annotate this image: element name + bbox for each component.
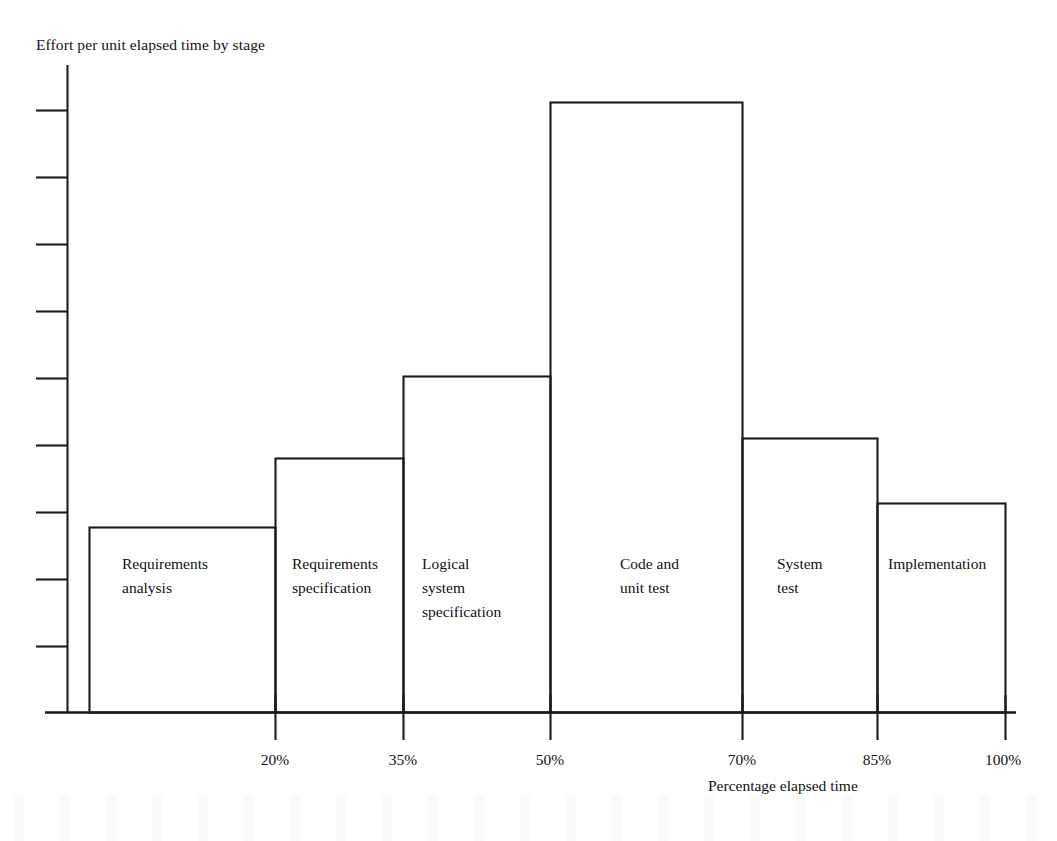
- svg-text:unit test: unit test: [620, 579, 670, 596]
- x-axis-ticks: [276, 695, 1006, 740]
- svg-text:system: system: [422, 579, 465, 596]
- svg-text:analysis: analysis: [122, 579, 172, 596]
- svg-text:specification: specification: [422, 603, 501, 620]
- x-tick-label-85: 85%: [863, 751, 892, 768]
- bar-label-code-and-unit-test: Code and unit test: [620, 555, 679, 596]
- bar-label-logical-system-specification: Logical system specification: [422, 555, 501, 620]
- svg-text:specification: specification: [292, 579, 371, 596]
- bars-group: [90, 103, 1006, 713]
- bar-label-system-test: System test: [777, 555, 823, 596]
- bar-labels-group: Requirements analysis Requirements speci…: [122, 555, 986, 620]
- bar-implementation[interactable]: [878, 504, 1006, 713]
- y-axis-ticks: [36, 111, 67, 647]
- chart-plot-area: 20% 35% 50% 70% 85% 100% Requirements an…: [0, 0, 1057, 841]
- x-tick-label-50: 50%: [536, 751, 565, 768]
- x-axis-title: Percentage elapsed time: [708, 777, 858, 796]
- bar-label-implementation: Implementation: [888, 555, 986, 572]
- svg-text:System: System: [777, 555, 823, 572]
- x-tick-label-100: 100%: [985, 751, 1021, 768]
- svg-text:Code and: Code and: [620, 555, 679, 572]
- x-tick-label-70: 70%: [728, 751, 757, 768]
- figure-histogram: Effort per unit elapsed time by stage: [0, 0, 1057, 841]
- bar-label-requirements-specification: Requirements specification: [292, 555, 378, 596]
- x-tick-label-20: 20%: [261, 751, 290, 768]
- svg-text:test: test: [777, 579, 799, 596]
- svg-text:Logical: Logical: [422, 555, 469, 572]
- bar-logical-system-specification[interactable]: [404, 377, 551, 713]
- bar-label-requirements-analysis: Requirements analysis: [122, 555, 208, 596]
- x-tick-label-35: 35%: [389, 751, 418, 768]
- x-axis-tick-labels: 20% 35% 50% 70% 85% 100%: [261, 751, 1021, 768]
- svg-text:Implementation: Implementation: [888, 555, 986, 572]
- svg-text:Requirements: Requirements: [292, 555, 378, 572]
- svg-text:Requirements: Requirements: [122, 555, 208, 572]
- bar-system-test[interactable]: [743, 439, 878, 713]
- bar-code-and-unit-test[interactable]: [551, 103, 743, 713]
